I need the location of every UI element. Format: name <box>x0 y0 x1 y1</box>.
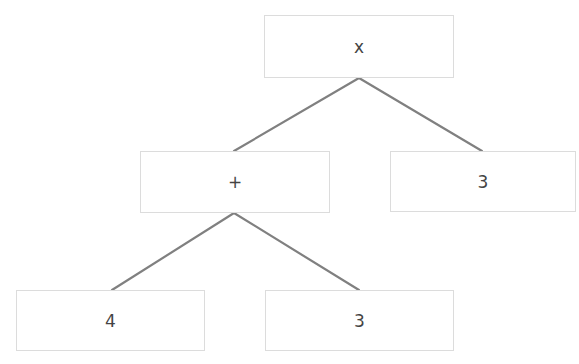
node-right-3: 3 <box>390 151 576 212</box>
edge-plus-leaf3 <box>234 213 359 290</box>
node-label: + <box>228 172 242 192</box>
node-label: 3 <box>354 311 365 331</box>
node-label: 4 <box>105 311 116 331</box>
node-leaf-4: 4 <box>16 290 205 351</box>
node-label: x <box>354 37 364 57</box>
edge-root-plus <box>234 78 359 151</box>
node-leaf-3: 3 <box>265 290 454 351</box>
node-label: 3 <box>478 172 489 192</box>
node-plus: + <box>140 151 330 213</box>
node-root-multiply: x <box>264 15 454 78</box>
edge-plus-leaf4 <box>112 213 234 290</box>
edge-root-right3 <box>359 78 482 151</box>
